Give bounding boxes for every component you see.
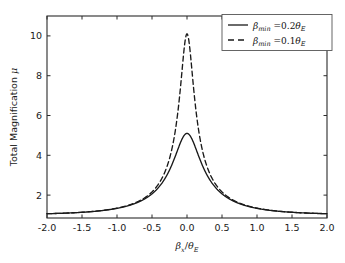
y-tick-label: 6 <box>36 110 42 121</box>
figure-container: -2.0-1.5-1.0-0.50.00.51.01.52.0 246810 β… <box>0 0 345 263</box>
x-tick-label: 1.0 <box>249 222 264 233</box>
svg-text:βx/θE: βx/θE <box>175 240 199 254</box>
y-tick-label: 2 <box>36 190 42 201</box>
y-axis-title: Total Magnification μ <box>8 68 19 167</box>
legend[interactable]: βmin =0.2θE βmin =0.1θE <box>222 15 332 51</box>
x-tick-label: -2.0 <box>38 222 57 233</box>
ylabel-symbol: μ <box>8 68 19 74</box>
x-tick-label: 0.5 <box>214 222 229 233</box>
x-axis-title: βx/θE <box>175 240 199 254</box>
xlabel-theta-sub: E <box>193 246 199 254</box>
y-tick-label: 8 <box>36 70 42 81</box>
y-tick-label: 4 <box>36 150 42 161</box>
x-tick-label: -1.5 <box>73 222 92 233</box>
svg-text:Total Magnification μ: Total Magnification μ <box>8 68 19 167</box>
x-tick-label: -1.0 <box>108 222 127 233</box>
y-tick-label: 10 <box>30 30 42 41</box>
x-tick-label: 0.0 <box>179 222 194 233</box>
x-tick-label: 2.0 <box>319 222 334 233</box>
magnification-plot: -2.0-1.5-1.0-0.50.00.51.01.52.0 246810 β… <box>0 0 345 263</box>
x-tick-label: -0.5 <box>143 222 162 233</box>
x-tick-label: 1.5 <box>284 222 299 233</box>
ylabel-main: Total Magnification <box>8 77 19 167</box>
